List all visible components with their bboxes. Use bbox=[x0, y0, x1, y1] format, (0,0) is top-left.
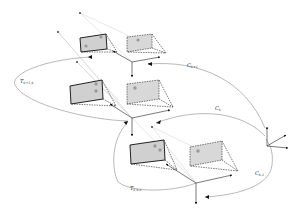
label-t-k-k-minus-1: Tk,k-1 bbox=[130, 185, 142, 192]
camera-k bbox=[70, 80, 173, 136]
image-plane-left bbox=[130, 140, 165, 164]
camera-k-minus-1 bbox=[130, 140, 238, 204]
label-c-k-plus-1: Ck+1 bbox=[187, 62, 198, 69]
image-plane-right bbox=[190, 141, 222, 166]
label-c-k-minus-1: Ck-1 bbox=[255, 170, 264, 177]
camera-pose-diagram: Ck+1 Tk+1,k Ck Ck-1 Tk,k-1 bbox=[0, 0, 305, 214]
image-plane-right bbox=[127, 34, 152, 52]
trajectory-curves bbox=[14, 57, 272, 197]
image-plane-left bbox=[80, 34, 107, 52]
camera-k-plus-1 bbox=[80, 34, 166, 77]
label-t-k-plus-1-k: Tk+1,k bbox=[20, 78, 34, 85]
image-plane-right bbox=[127, 80, 159, 104]
image-plane-left bbox=[70, 80, 103, 104]
feature-points bbox=[57, 12, 153, 128]
curve-arrowheads bbox=[88, 55, 209, 199]
world-frame bbox=[267, 127, 288, 148]
label-c-k: Ck bbox=[215, 105, 221, 112]
